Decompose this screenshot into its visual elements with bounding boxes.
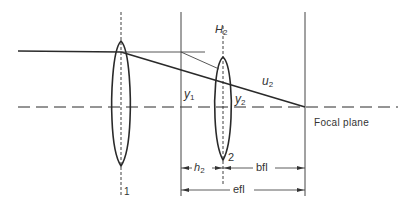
h2-arrow-right (215, 166, 222, 170)
label-y1-sub: 1 (190, 93, 194, 102)
label-efl: efl (233, 184, 245, 195)
refracted-ray (121, 52, 305, 107)
label-u2-sub: 2 (269, 80, 273, 89)
label-y2: y2 (235, 93, 245, 107)
label-bfl: bfl (256, 162, 268, 173)
bfl-arrow-right (297, 166, 304, 170)
construction-line (181, 52, 219, 69)
h2-arrow-left (182, 166, 189, 170)
label-H2-sub: 2 (223, 28, 227, 37)
label-y2-sub: 2 (241, 98, 245, 107)
efl-arrow-left (182, 188, 189, 192)
label-u2: u2 (262, 75, 273, 89)
efl-arrow-right (297, 188, 304, 192)
label-focal-plane: Focal plane (314, 118, 369, 128)
label-H2-main: H (215, 23, 223, 35)
label-y1: y1 (184, 88, 194, 102)
label-h2: h2 (194, 162, 205, 175)
label-lens2-number: 2 (228, 152, 234, 163)
label-H2: H2 (215, 24, 227, 37)
bfl-arrow-left (224, 166, 231, 170)
optics-diagram (0, 0, 401, 209)
label-lens1-number: 1 (124, 187, 130, 197)
incoming-ray (18, 51, 121, 52)
label-u2-main: u (262, 74, 269, 88)
label-h2-sub: 2 (200, 166, 204, 175)
